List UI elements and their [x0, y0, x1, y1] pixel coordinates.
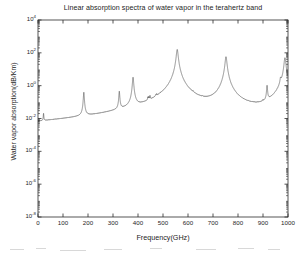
axis-ticks: [38, 20, 288, 217]
scan-artifact-mark: [60, 250, 86, 251]
scan-artifact-strip: [0, 246, 303, 254]
scan-artifact-mark: [150, 248, 162, 249]
scan-artifact-mark: [10, 249, 24, 250]
y-tick-labels: 10-810-610-410-2100102104: [8, 0, 36, 254]
y-tick-label: 10-4: [14, 147, 36, 153]
axes-frame: [38, 20, 288, 217]
data-series-line: [38, 49, 288, 120]
plot-area: [0, 0, 303, 254]
y-tick-label: 104: [14, 16, 36, 22]
y-tick-label: 102: [14, 49, 36, 55]
y-tick-label: 100: [14, 82, 36, 88]
x-tick-label: 1000: [273, 219, 303, 226]
scan-artifact-mark: [238, 248, 254, 249]
scan-artifact-mark: [268, 249, 280, 250]
figure-canvas: Linear absorption spectra of water vapor…: [0, 0, 303, 254]
scan-artifact-mark: [196, 249, 216, 250]
x-tick-labels: 01002003004005006007008009001000: [0, 219, 303, 231]
y-tick-label: 10-2: [14, 115, 36, 121]
y-tick-label: 10-6: [14, 180, 36, 186]
scan-artifact-mark: [36, 248, 46, 249]
scan-artifact-mark: [104, 249, 122, 250]
